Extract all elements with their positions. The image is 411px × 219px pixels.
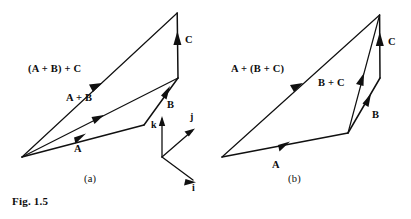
panel-a-coordinate-axes [159,116,196,186]
panel-a-vector-a-plus-b [22,78,178,157]
panel-a-label-a-plus-b: A + B [66,93,92,104]
panel-b-label-a-plus-b-plus-c: A + (B + C) [231,64,284,75]
axis-j [162,129,195,158]
panel-b-vector-a [222,133,348,157]
panel-a-vector-a [22,125,144,157]
panel-b-label-vector-c: C [388,37,396,48]
axis-k [159,116,165,157]
axis-i [162,157,196,186]
panel-a-label-vector-b: B [167,100,174,111]
figure-1-5: (A + B) + C A + B A B C k j i (a) A + (B… [0,0,411,219]
panel-b-vector-b [348,78,380,133]
panel-a-label-axis-j: j [190,112,194,122]
panel-a-label-vector-a: A [74,144,82,155]
panel-a-vector-c [173,13,181,78]
panel-b-label-b-plus-c: B + C [318,78,345,89]
panel-a-label-a-plus-b-plus-c: (A + B) + C [28,64,81,75]
panel-a-tag: (a) [84,174,96,185]
panel-a-label-axis-i: i [192,183,195,193]
panel-b-geometry [222,15,384,157]
panel-a-label-vector-c: C [185,35,193,46]
panel-a-vector-a-plus-b-plus-c [22,13,177,157]
panel-a-label-axis-k: k [151,120,157,130]
panel-b-label-vector-b: B [372,110,379,121]
panel-b-tag: (b) [288,174,301,185]
figure-caption: Fig. 1.5 [12,196,48,207]
panel-b-vector-a-plus-b-plus-c [222,15,380,157]
vector-diagram-canvas [0,0,411,219]
panel-b-label-vector-a: A [272,160,280,171]
